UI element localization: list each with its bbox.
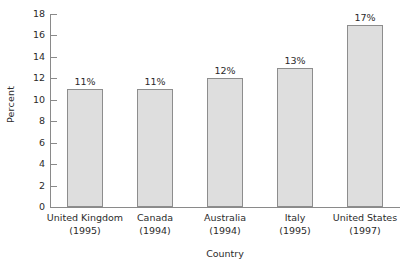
y-axis-title: Percent — [0, 0, 22, 208]
y-tick-label: 2 — [39, 180, 45, 191]
bar[interactable] — [67, 89, 103, 207]
category-year: (1995) — [47, 225, 123, 238]
y-tick-mark — [51, 186, 57, 187]
bar[interactable] — [277, 68, 313, 207]
bar-group[interactable]: 11% — [67, 89, 103, 207]
x-axis-line — [50, 207, 400, 208]
y-tick-label: 10 — [33, 94, 45, 105]
category-name: United States — [333, 212, 397, 225]
y-tick-label: 12 — [33, 72, 45, 83]
y-tick-label: 4 — [39, 158, 45, 169]
category-name: Italy — [279, 212, 311, 225]
x-tick-label: United States(1997) — [333, 212, 397, 237]
category-name: United Kingdom — [47, 212, 123, 225]
x-tick-label: Italy(1995) — [279, 212, 311, 237]
bar-chart: Percent 024681012141618 11%11%12%13%17% … — [0, 0, 413, 272]
plot-area: 024681012141618 11%11%12%13%17% United K… — [50, 14, 400, 208]
y-axis-line — [50, 14, 51, 208]
y-tick-label: 6 — [39, 137, 45, 148]
x-axis-title: Country — [50, 248, 400, 259]
bar-value-label: 12% — [214, 65, 235, 76]
bar-value-label: 11% — [144, 76, 165, 87]
bar-value-label: 11% — [74, 76, 95, 87]
y-tick-label: 0 — [39, 201, 45, 212]
bar-value-label: 13% — [284, 55, 305, 66]
category-year: (1995) — [279, 225, 311, 238]
category-name: Australia — [204, 212, 246, 225]
x-tick-label: Canada(1994) — [137, 212, 173, 237]
y-tick-mark — [51, 143, 57, 144]
category-name: Canada — [137, 212, 173, 225]
bar-group[interactable]: 12% — [207, 78, 243, 207]
bar[interactable] — [207, 78, 243, 207]
y-tick-mark — [51, 57, 57, 58]
y-tick-label: 16 — [33, 29, 45, 40]
category-year: (1997) — [333, 225, 397, 238]
y-tick-mark — [51, 121, 57, 122]
category-year: (1994) — [137, 225, 173, 238]
bar-group[interactable]: 17% — [347, 25, 383, 207]
y-tick-label: 14 — [33, 51, 45, 62]
y-tick-mark — [51, 35, 57, 36]
y-axis-title-text: Percent — [6, 85, 17, 122]
y-tick-label: 18 — [33, 8, 45, 19]
y-tick-mark — [51, 207, 57, 208]
x-tick-label: Australia(1994) — [204, 212, 246, 237]
y-tick-label: 8 — [39, 115, 45, 126]
y-tick-mark — [51, 164, 57, 165]
bar-group[interactable]: 11% — [137, 89, 173, 207]
category-year: (1994) — [204, 225, 246, 238]
bar[interactable] — [347, 25, 383, 207]
x-tick-label: United Kingdom(1995) — [47, 212, 123, 237]
bar-value-label: 17% — [354, 12, 375, 23]
y-tick-mark — [51, 14, 57, 15]
y-tick-mark — [51, 78, 57, 79]
bar[interactable] — [137, 89, 173, 207]
y-tick-mark — [51, 100, 57, 101]
bar-group[interactable]: 13% — [277, 68, 313, 207]
x-axis-title-text: Country — [206, 248, 244, 259]
